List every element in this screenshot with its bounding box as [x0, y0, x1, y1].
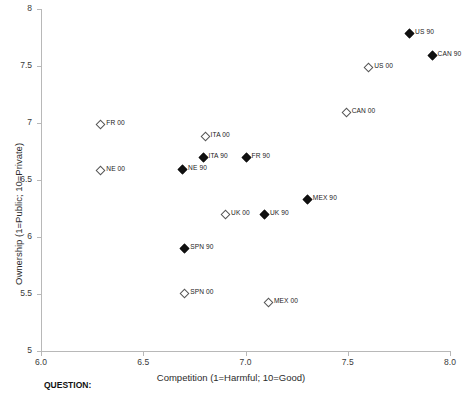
data-point-label: CAN 90	[438, 50, 462, 57]
y-tick	[37, 351, 41, 352]
data-point-label: NE 90	[188, 164, 207, 171]
y-tick-label: 7.5	[10, 60, 32, 70]
y-tick-label: 8	[10, 3, 32, 13]
data-point-label: ITA 90	[209, 152, 228, 159]
data-point-label: MEX 00	[274, 297, 298, 304]
diamond-marker-icon	[96, 120, 106, 130]
y-tick	[37, 9, 41, 10]
y-axis-line	[41, 9, 42, 352]
diamond-marker-icon	[364, 63, 374, 73]
data-point-label: UK 90	[270, 209, 289, 216]
diamond-marker-icon	[264, 298, 274, 308]
diamond-marker-icon	[178, 164, 188, 174]
x-tick-label: 6.5	[123, 357, 163, 367]
data-point-label: FR 00	[106, 119, 124, 126]
data-point-label: UK 00	[231, 209, 250, 216]
diamond-marker-icon	[180, 244, 190, 254]
diamond-marker-icon	[241, 153, 251, 163]
x-tick-label: 7.0	[226, 357, 266, 367]
y-tick	[37, 237, 41, 238]
y-tick	[37, 123, 41, 124]
data-point-label: NE 00	[106, 165, 125, 172]
y-tick-label: 5	[10, 345, 32, 355]
diamond-marker-icon	[259, 210, 269, 220]
diamond-marker-icon	[221, 210, 231, 220]
x-tick	[348, 352, 349, 356]
y-tick-label: 7	[10, 117, 32, 127]
data-point-label: SPN 90	[190, 243, 213, 250]
diamond-marker-icon	[96, 165, 106, 175]
y-tick	[37, 294, 41, 295]
diamond-marker-icon	[341, 107, 351, 117]
diamond-marker-icon	[427, 50, 437, 60]
data-point-label: SPN 00	[190, 288, 213, 295]
y-tick	[37, 66, 41, 67]
x-tick	[246, 352, 247, 356]
diamond-marker-icon	[405, 28, 415, 38]
diamond-marker-icon	[302, 195, 312, 205]
data-point-label: CAN 00	[352, 107, 376, 114]
x-tick	[41, 352, 42, 356]
diamond-marker-icon	[180, 288, 190, 298]
data-point-label: FR 90	[252, 152, 270, 159]
x-tick-label: 7.5	[328, 357, 368, 367]
x-tick	[143, 352, 144, 356]
diamond-marker-icon	[198, 153, 208, 163]
data-point-label: US 90	[415, 28, 434, 35]
y-axis-label: Ownership (1=Public; 10=Private)	[13, 143, 24, 285]
data-point-label: ITA 00	[211, 131, 230, 138]
data-point-label: US 00	[374, 62, 393, 69]
data-point-label: MEX 90	[313, 194, 337, 201]
y-tick-label: 5.5	[10, 288, 32, 298]
question-label: QUESTION:	[44, 380, 91, 390]
x-tick	[450, 352, 451, 356]
x-tick-label: 6.0	[21, 357, 61, 367]
diamond-marker-icon	[200, 131, 210, 141]
y-tick	[37, 180, 41, 181]
scatter-chart: 6.06.57.07.58.0 55.566.577.58 US 90CAN 9…	[0, 0, 462, 394]
x-tick-label: 8.0	[430, 357, 462, 367]
